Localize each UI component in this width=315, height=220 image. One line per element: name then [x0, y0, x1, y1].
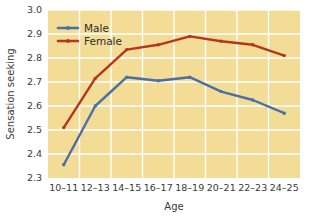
- data-point-male: [62, 163, 65, 166]
- y-axis-tick-labels: 2.32.42.52.62.72.82.93.0: [27, 4, 42, 183]
- x-axis-tick-labels: 10–1112–1314–1516–1718–1920–2122–2324–25: [49, 182, 298, 193]
- y-tick-label: 2.7: [27, 76, 42, 87]
- x-tick-label: 16–17: [144, 182, 173, 193]
- data-point-female: [188, 35, 191, 38]
- data-point-female: [125, 48, 128, 51]
- sensation-seeking-line-chart: 2.32.42.52.62.72.82.93.0 10–1112–1314–15…: [0, 0, 315, 220]
- data-point-male: [157, 79, 160, 82]
- data-point-female: [220, 40, 223, 43]
- y-tick-label: 2.9: [27, 28, 42, 39]
- legend-marker-female: [66, 39, 70, 43]
- y-tick-label: 2.5: [27, 124, 42, 135]
- x-tick-label: 12–13: [81, 182, 110, 193]
- x-tick-label: 10–11: [49, 182, 78, 193]
- y-tick-label: 2.6: [27, 100, 42, 111]
- y-tick-label: 2.4: [27, 148, 42, 159]
- data-point-male: [188, 76, 191, 79]
- legend-label-male: Male: [84, 22, 109, 34]
- data-point-male: [251, 98, 254, 101]
- x-tick-label: 14–15: [112, 182, 141, 193]
- data-point-female: [251, 43, 254, 46]
- data-point-male: [283, 112, 286, 115]
- legend-marker-male: [66, 26, 70, 30]
- data-point-female: [283, 54, 286, 57]
- chart-container: 2.32.42.52.62.72.82.93.0 10–1112–1314–15…: [0, 0, 315, 220]
- y-axis-title: Sensation seeking: [5, 48, 16, 139]
- data-point-female: [157, 43, 160, 46]
- x-tick-label: 24–25: [270, 182, 299, 193]
- x-tick-label: 20–21: [207, 182, 236, 193]
- data-point-female: [62, 126, 65, 129]
- y-tick-label: 2.3: [27, 172, 42, 183]
- legend-label-female: Female: [84, 35, 122, 47]
- data-point-female: [94, 77, 97, 80]
- x-axis-title: Age: [164, 201, 183, 212]
- data-point-male: [94, 104, 97, 107]
- data-point-male: [220, 90, 223, 93]
- x-tick-label: 18–19: [175, 182, 204, 193]
- y-tick-label: 2.8: [27, 52, 42, 63]
- y-tick-label: 3.0: [27, 4, 42, 15]
- data-point-male: [125, 76, 128, 79]
- x-tick-label: 22–23: [238, 182, 267, 193]
